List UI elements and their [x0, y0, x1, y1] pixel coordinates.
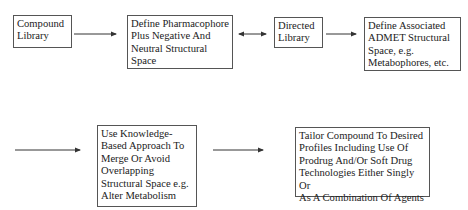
node-define-admet: Define Associated ADMET Structural Space… — [364, 17, 461, 71]
node-compound-library: Compound Library — [13, 15, 72, 48]
node-knowledge-based: Use Knowledge- Based Approach To Merge O… — [97, 125, 197, 207]
node-directed-library: Directed Library — [274, 17, 323, 48]
node-tailor-compound: Tailor Compound To Desired Profiles Incl… — [295, 127, 430, 197]
node-define-pharmacophore: Define Pharmacophore Plus Negative And N… — [127, 15, 233, 69]
